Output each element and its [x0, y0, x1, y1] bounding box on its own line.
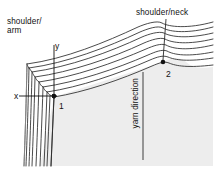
left-cap-3	[39, 82, 43, 87]
label-axis-x: x	[14, 91, 18, 101]
panel-fill	[40, 58, 213, 166]
left-cap-4	[35, 77, 39, 82]
left-cap-2	[43, 87, 47, 92]
label-point-1: 1	[59, 101, 64, 111]
point-marker-1	[52, 94, 57, 99]
point-marker-2	[161, 60, 166, 65]
label-axis-y: y	[55, 41, 59, 51]
wale-line-6	[32, 78, 35, 166]
axis-x-group	[19, 94, 57, 98]
left-cap-6	[29, 68, 32, 72]
diagram-svg	[0, 0, 219, 172]
label-point-2: 2	[166, 69, 171, 79]
wale-line-5	[36, 83, 39, 166]
wale-line-7	[29, 73, 32, 166]
figure-canvas: shoulder/ arm shoulder/neck yarn directi…	[0, 0, 219, 172]
left-cap-5	[32, 72, 35, 77]
